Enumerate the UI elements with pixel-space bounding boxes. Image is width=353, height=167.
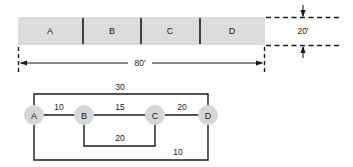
beam-segment-label-c: C [167, 26, 174, 36]
overall-length-label: 80' [134, 58, 145, 68]
figure-canvas: A B C D 80' [0, 0, 353, 167]
engineering-figure: A B C D 80' [0, 0, 353, 167]
depth-arrow-head-bottom [300, 46, 305, 53]
node-label-c: C [152, 111, 159, 121]
edge-weight-b-c: 15 [115, 102, 125, 112]
node-label-a: A [31, 111, 37, 121]
network-diagram: A B C D 10 15 20 30 20 10 [24, 82, 218, 160]
depth-dimension: 20' [266, 5, 340, 58]
beam-segment-label-a: A [47, 26, 53, 36]
edge-weight-b-c-bottom: 20 [115, 133, 125, 143]
node-label-b: B [81, 111, 87, 121]
edge-weight-a-d-top: 30 [115, 82, 125, 92]
edge-weight-a-b: 10 [54, 102, 64, 112]
dimension-arrow-left [20, 60, 28, 65]
beam-diagram: A B C D [18, 17, 265, 45]
overall-length-dimension: 80' [19, 47, 265, 72]
node-label-d: D [205, 111, 212, 121]
beam-segment-label-d: D [229, 26, 236, 36]
depth-label: 20' [297, 26, 308, 36]
edge-weight-c-d: 20 [177, 102, 187, 112]
dimension-arrow-right [256, 60, 264, 65]
beam-segment-label-b: B [109, 26, 115, 36]
edge-weight-a-d-bottom: 10 [173, 147, 183, 157]
depth-arrow-head-top [300, 10, 305, 17]
